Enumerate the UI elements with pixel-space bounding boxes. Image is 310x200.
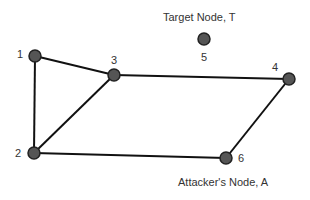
- node-label-5: 5: [201, 52, 207, 63]
- attacker-node-annotation: Attacker's Node, A: [178, 177, 268, 188]
- edge-1-2: [34, 56, 35, 153]
- node-label-4: 4: [272, 62, 278, 73]
- node-3: [108, 69, 120, 81]
- target-node-annotation: Target Node, T: [163, 12, 236, 23]
- node-5: [198, 33, 210, 45]
- node-label-2: 2: [15, 148, 21, 159]
- node-label-6: 6: [238, 153, 244, 164]
- node-label-3: 3: [111, 55, 117, 66]
- node-6: [220, 152, 232, 164]
- edge-4-6: [226, 79, 289, 158]
- node-1: [29, 50, 41, 62]
- edge-2-3: [34, 75, 114, 153]
- node-2: [28, 147, 40, 159]
- edge-3-4: [114, 75, 289, 79]
- edge-2-6: [34, 153, 226, 158]
- node-label-1: 1: [17, 49, 23, 60]
- network-graph: [0, 0, 310, 200]
- node-4: [283, 73, 295, 85]
- edge-1-3: [35, 56, 114, 75]
